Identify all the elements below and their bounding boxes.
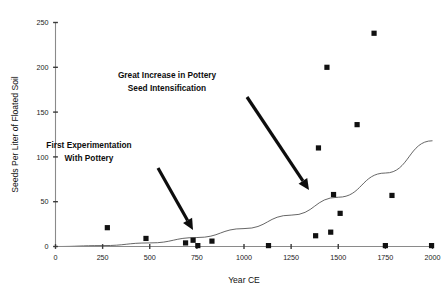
y-axis-title: Seeds Per Liter of Floated Soil bbox=[10, 76, 20, 193]
data-point-marker bbox=[389, 193, 394, 198]
data-point-marker bbox=[355, 122, 360, 127]
axes-group bbox=[56, 23, 434, 247]
x-tick-label: 1250 bbox=[283, 253, 299, 262]
data-point-marker bbox=[383, 243, 388, 248]
data-point-marker bbox=[313, 233, 318, 238]
x-tick-label: 1000 bbox=[236, 253, 252, 262]
chart-container: 0250500750100012501500175020000501001502… bbox=[0, 0, 444, 293]
y-tick-label: 0 bbox=[45, 242, 49, 251]
data-point-marker bbox=[191, 238, 196, 243]
annotation-arrow-shaft bbox=[247, 97, 303, 181]
x-tick-label: 500 bbox=[144, 253, 156, 262]
data-point-marker bbox=[105, 225, 110, 230]
y-tick-label: 150 bbox=[37, 108, 49, 117]
x-axis-title: Year CE bbox=[228, 275, 260, 285]
data-point-marker bbox=[338, 211, 343, 216]
annotation-label: First Experimentation bbox=[46, 140, 131, 150]
scatter-plot-svg: 0250500750100012501500175020000501001502… bbox=[0, 0, 444, 293]
annotation-arrow-shaft bbox=[158, 168, 188, 220]
data-point-marker bbox=[328, 230, 333, 235]
y-tick-label: 200 bbox=[37, 63, 49, 72]
x-tick-label: 250 bbox=[97, 253, 109, 262]
data-point-marker bbox=[143, 236, 148, 241]
y-tick-label: 100 bbox=[37, 153, 49, 162]
y-tick-label: 250 bbox=[37, 18, 49, 27]
data-point-marker bbox=[195, 243, 200, 248]
data-point-marker bbox=[331, 192, 336, 197]
x-tick-label: 1500 bbox=[330, 253, 346, 262]
x-tick-label: 1750 bbox=[377, 253, 393, 262]
data-point-marker bbox=[429, 243, 434, 248]
data-point-marker bbox=[371, 31, 376, 36]
annotations-group: Great Increase in PotterySeed Intensific… bbox=[46, 70, 309, 230]
x-tick-label: 0 bbox=[54, 253, 58, 262]
data-point-marker bbox=[183, 240, 188, 245]
data-point-marker bbox=[324, 65, 329, 70]
x-tick-label: 2000 bbox=[425, 253, 441, 262]
data-point-marker bbox=[316, 145, 321, 150]
annotation-label: With Pottery bbox=[65, 153, 114, 163]
x-tick-label: 750 bbox=[191, 253, 203, 262]
y-tick-label: 50 bbox=[41, 197, 49, 206]
annotation-label: Seed Intensification bbox=[128, 83, 206, 93]
data-point-marker bbox=[266, 243, 271, 248]
data-markers-group bbox=[105, 31, 434, 249]
data-point-marker bbox=[209, 239, 214, 244]
annotation-label: Great Increase in Pottery bbox=[118, 70, 217, 80]
